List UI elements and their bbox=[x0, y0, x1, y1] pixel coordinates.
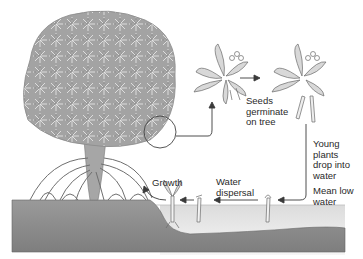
mangrove-canopy bbox=[23, 11, 175, 147]
label-seeds-germinate: Seeds germinate on tree bbox=[246, 96, 288, 128]
arrow-to-growth bbox=[180, 197, 194, 203]
label-water-dispersal: Water dispersal bbox=[216, 177, 254, 198]
label-mean-low-water: Mean low water bbox=[313, 186, 354, 207]
label-growth: Growth bbox=[152, 178, 183, 189]
arrow-circle-to-seeds bbox=[176, 102, 215, 136]
arrow-drop-into-water bbox=[278, 124, 306, 203]
label-young-plants-drop: Young plants drop into water bbox=[313, 139, 350, 181]
seed-cluster-germinating bbox=[194, 44, 248, 104]
arrow-seeds-to-young-plants bbox=[240, 75, 260, 81]
mangrove-life-cycle-diagram: Seeds germinate on tree Young plants dro… bbox=[0, 0, 363, 259]
